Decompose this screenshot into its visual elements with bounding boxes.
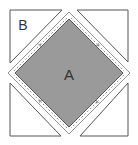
corner-label: B	[18, 17, 27, 33]
quilt-block-diagram: A B	[0, 0, 138, 145]
center-label: A	[64, 66, 74, 83]
